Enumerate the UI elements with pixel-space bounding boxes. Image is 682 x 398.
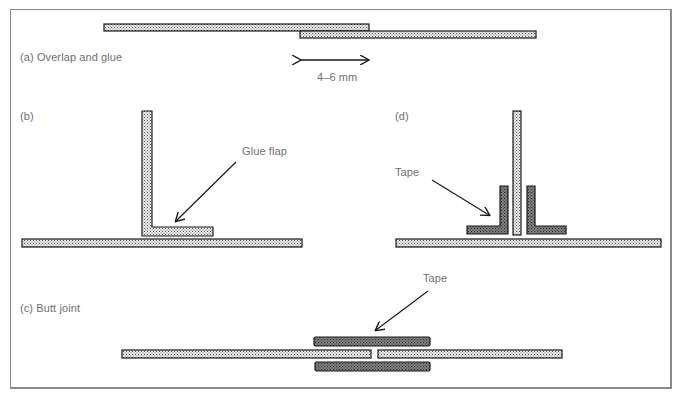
panel-c-butt-joint <box>122 291 562 371</box>
tape-bottom <box>315 362 430 371</box>
tape-label-c: Tape <box>423 272 447 284</box>
tape-left-l <box>467 186 508 234</box>
board-bottom-strip <box>300 31 536 38</box>
caption-d: (d) <box>395 110 409 122</box>
caption-c: (c) Butt joint <box>20 302 80 314</box>
board-top-strip <box>104 24 369 31</box>
tape-right-l <box>527 186 566 234</box>
glue-flap-arrow <box>176 162 236 221</box>
board-l-piece <box>142 111 213 236</box>
dimension-label: 4–6 mm <box>317 71 357 83</box>
panel-d-tape <box>396 111 661 247</box>
tape-arrow <box>376 291 428 330</box>
tape-label-d: Tape <box>395 166 419 178</box>
board-base-strip <box>396 239 661 247</box>
panel-b-glue-flap <box>22 111 302 247</box>
panel-a-overlap <box>104 24 536 60</box>
tape-top <box>314 337 430 346</box>
board-right-strip <box>378 350 562 358</box>
glue-flap-label: Glue flap <box>242 145 287 157</box>
board-left-strip <box>122 350 371 358</box>
caption-b: (b) <box>20 110 34 122</box>
board-base-strip <box>22 239 302 247</box>
caption-a: (a) Overlap and glue <box>20 51 122 63</box>
board-vertical-strip <box>513 111 521 235</box>
tape-arrow <box>432 180 489 215</box>
